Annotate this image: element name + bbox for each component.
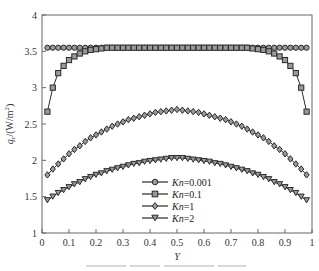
- triangle-down-marker: [98, 171, 104, 176]
- square-marker: [110, 45, 115, 50]
- triangle-down-marker: [109, 167, 115, 172]
- legend-item: Kn=0.1: [142, 189, 202, 200]
- circle-marker: [299, 45, 304, 50]
- diamond-marker: [110, 123, 115, 129]
- square-marker: [201, 45, 206, 50]
- square-marker: [72, 54, 77, 59]
- x-axis: 00.10.20.30.40.50.60.70.80.91: [40, 229, 315, 248]
- x-tick-label: 0.1: [63, 237, 76, 248]
- square-marker: [77, 51, 82, 56]
- diamond-marker: [272, 143, 277, 149]
- y-tick-label: 1: [32, 228, 37, 239]
- square-marker: [66, 57, 71, 62]
- square-marker: [180, 45, 185, 50]
- circle-marker: [293, 45, 298, 50]
- square-marker: [83, 49, 88, 54]
- square-marker: [304, 109, 309, 114]
- square-marker: [266, 49, 271, 54]
- square-marker: [56, 71, 61, 76]
- square-marker: [255, 47, 260, 52]
- square-marker: [45, 109, 50, 114]
- diamond-marker: [191, 108, 196, 114]
- square-marker: [212, 45, 217, 50]
- diamond-marker: [218, 115, 223, 121]
- square-marker: [50, 85, 55, 90]
- y-tick-label: 1.5: [25, 191, 38, 202]
- square-marker: [147, 45, 152, 50]
- series-kn-0-1: [45, 45, 309, 114]
- square-marker: [245, 45, 250, 50]
- square-marker: [288, 63, 293, 68]
- triangle-down-marker: [120, 164, 126, 169]
- diamond-marker: [250, 129, 255, 135]
- legend: Kn=0.001Kn=0.1Kn=1Kn=2: [142, 177, 212, 224]
- diamond-marker: [104, 126, 109, 132]
- square-marker: [191, 45, 196, 50]
- diamond-marker: [277, 146, 282, 152]
- diamond-marker: [212, 114, 217, 120]
- diamond-marker: [152, 203, 158, 210]
- triangle-down-marker: [228, 164, 234, 169]
- x-tick-label: 0.7: [225, 237, 238, 248]
- square-marker: [164, 45, 169, 50]
- diamond-marker: [83, 138, 88, 144]
- diamond-marker: [77, 143, 82, 149]
- x-tick-label: 0.8: [252, 237, 265, 248]
- square-marker: [153, 45, 158, 50]
- series-kn-1: [45, 106, 309, 178]
- line-chart: 00.10.20.30.40.50.60.70.80.91 11.522.533…: [0, 0, 319, 271]
- diamond-marker: [245, 126, 250, 132]
- legend-item: Kn=1: [142, 201, 194, 212]
- circle-marker: [152, 179, 158, 185]
- diamond-marker: [223, 116, 228, 122]
- square-marker: [158, 45, 163, 50]
- y-axis-title-close: ): [4, 104, 16, 107]
- diamond-marker: [147, 111, 152, 117]
- diamond-marker: [201, 111, 206, 117]
- diamond-marker: [142, 112, 147, 118]
- square-marker: [196, 45, 201, 50]
- triangle-down-marker: [233, 166, 239, 171]
- square-marker: [299, 85, 304, 90]
- x-tick-label: 0.2: [90, 237, 103, 248]
- square-marker: [293, 71, 298, 76]
- circle-marker: [282, 45, 287, 50]
- diamond-marker: [207, 112, 212, 118]
- circle-marker: [66, 45, 71, 50]
- diamond-marker: [228, 119, 233, 125]
- legend-label: Kn=2: [171, 213, 194, 224]
- square-marker: [250, 46, 255, 51]
- triangle-down-marker: [115, 166, 121, 171]
- square-marker: [185, 45, 190, 50]
- square-marker: [126, 45, 131, 50]
- square-marker: [277, 54, 282, 59]
- figure-caption-placeholder: [86, 256, 286, 264]
- y-tick-label: 3.5: [25, 46, 38, 57]
- diamond-marker: [180, 107, 185, 113]
- square-marker: [174, 45, 179, 50]
- legend-label: Kn=0.1: [171, 189, 202, 200]
- square-marker: [228, 45, 233, 50]
- x-tick-label: 0.4: [144, 237, 157, 248]
- circle-marker: [61, 45, 66, 50]
- square-marker: [223, 45, 228, 50]
- y-tick-label: 2.5: [25, 119, 38, 130]
- diamond-marker: [120, 119, 125, 125]
- diamond-marker: [153, 109, 158, 115]
- diamond-marker: [93, 132, 98, 138]
- series-line: [47, 48, 306, 112]
- diamond-marker: [174, 106, 179, 112]
- legend-label: Kn=1: [171, 201, 194, 212]
- triangle-down-marker: [223, 163, 229, 168]
- y-axis-title-unit: /(W/m: [4, 110, 16, 136]
- diamond-marker: [185, 108, 190, 114]
- circle-marker: [288, 45, 293, 50]
- diamond-marker: [164, 108, 169, 114]
- square-marker: [99, 46, 104, 51]
- diamond-marker: [158, 108, 163, 114]
- square-marker: [120, 45, 125, 50]
- x-tick-label: 0: [40, 237, 45, 248]
- legend-label: Kn=0.001: [171, 177, 212, 188]
- x-tick-label: 1: [310, 237, 315, 248]
- square-marker: [142, 45, 147, 50]
